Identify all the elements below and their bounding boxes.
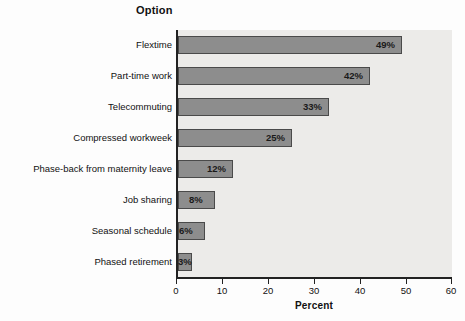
x-tick-label-10: 10 — [217, 285, 228, 296]
x-tick-label-0: 0 — [173, 285, 178, 296]
chart-title: Option — [136, 4, 173, 16]
x-tick-mark-10 — [222, 279, 223, 284]
bar-value-seasonal-schedule: 6% — [179, 224, 193, 237]
y-axis-category-labels: Flextime Part-time work Telecommuting Co… — [0, 30, 172, 279]
x-tick-mark-50 — [406, 279, 407, 284]
x-tick-label-40: 40 — [355, 285, 366, 296]
bar-part-time-work[interactable] — [178, 67, 370, 85]
x-tick-label-30: 30 — [309, 285, 320, 296]
x-tick-mark-30 — [314, 279, 315, 284]
x-tick-mark-0 — [176, 279, 177, 284]
y-axis-label-phased-retirement: Phased retirement — [0, 256, 172, 268]
x-tick-label-60: 60 — [446, 285, 457, 296]
bar-value-telecommuting: 33% — [303, 100, 322, 113]
bar-value-flextime: 49% — [376, 38, 395, 51]
bar-value-phase-back: 12% — [207, 162, 226, 175]
x-axis: 0 10 20 30 40 50 60 — [176, 279, 452, 319]
y-axis-label-phase-back: Phase-back from maternity leave — [0, 163, 172, 175]
plot-area: 49% 42% 33% 25% 12% 8% — [176, 30, 452, 279]
bars-layer: 49% 42% 33% 25% 12% 8% — [178, 30, 452, 277]
x-axis-title: Percent — [176, 300, 452, 311]
x-tick-mark-20 — [268, 279, 269, 284]
bar-value-phased-retirement: 3% — [178, 255, 192, 268]
y-axis-label-compressed-workweek: Compressed workweek — [0, 132, 172, 144]
chart-canvas: Option Flextime Part-time work Telecommu… — [0, 0, 465, 321]
y-axis-label-flextime: Flextime — [0, 39, 172, 51]
bar-value-part-time-work: 42% — [344, 69, 363, 82]
y-axis-label-part-time-work: Part-time work — [0, 70, 172, 82]
x-tick-label-50: 50 — [401, 285, 412, 296]
x-tick-mark-40 — [360, 279, 361, 284]
y-axis-label-telecommuting: Telecommuting — [0, 101, 172, 113]
bar-value-job-sharing: 8% — [189, 193, 203, 206]
x-tick-mark-60 — [451, 279, 452, 284]
bar-value-compressed-workweek: 25% — [266, 131, 285, 144]
y-axis-label-seasonal-schedule: Seasonal schedule — [0, 225, 172, 237]
bar-flextime[interactable] — [178, 36, 402, 54]
y-axis-label-job-sharing: Job sharing — [0, 194, 172, 206]
x-tick-label-20: 20 — [263, 285, 274, 296]
